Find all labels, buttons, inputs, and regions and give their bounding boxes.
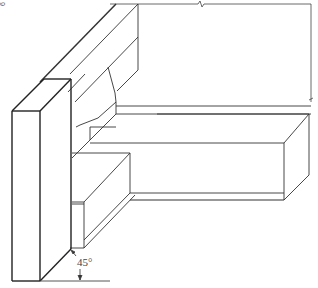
bench-drawing	[0, 0, 318, 288]
angle-annotation	[40, 250, 110, 281]
end-panel	[12, 79, 71, 281]
left-seat-box	[70, 140, 135, 248]
backrest	[40, 4, 138, 127]
right-seat-back-rail	[116, 102, 311, 114]
right-seat-box	[90, 114, 309, 200]
angle-label: 45°	[77, 256, 92, 268]
top-dimension-line	[110, 1, 313, 102]
